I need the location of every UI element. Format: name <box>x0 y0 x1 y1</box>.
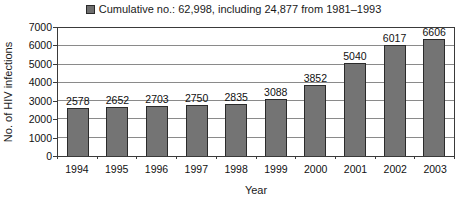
x-tick-label-1996: 1996 <box>137 163 177 175</box>
legend-label: Cumulative no.: 62,998, including 24,877… <box>99 3 382 16</box>
x-tick-mark <box>376 156 416 159</box>
x-tick-mark <box>98 156 138 159</box>
bar-2001 <box>344 63 366 156</box>
y-tick-label-1000: 1000 <box>12 133 52 144</box>
y-tick-label-4000: 4000 <box>12 77 52 88</box>
x-tick-label-2002: 2002 <box>375 163 415 175</box>
bar-2003 <box>423 39 445 156</box>
y-tick-mark-0 <box>53 156 57 157</box>
y-tick-mark-5000 <box>53 64 57 65</box>
y-tick-label-5000: 5000 <box>12 59 52 70</box>
x-tick-mark <box>217 156 257 159</box>
x-tick-label-1999: 1999 <box>256 163 296 175</box>
y-tick-label-7000: 7000 <box>12 22 52 33</box>
bar-slot-1997: 2750 <box>177 27 217 156</box>
y-axis-title-text: No. of HIV infections <box>2 42 14 142</box>
hiv-infections-bar-chart: Cumulative no.: 62,998, including 24,877… <box>0 0 467 207</box>
x-tick-mark <box>296 156 336 159</box>
bar-slot-2001: 5040 <box>335 27 375 156</box>
x-axis-tick-marks <box>57 156 455 159</box>
bar-slot-1999: 3088 <box>256 27 296 156</box>
chart-legend: Cumulative no.: 62,998, including 24,877… <box>0 3 467 16</box>
x-tick-mark <box>336 156 376 159</box>
bar-value-label-2002: 6017 <box>383 33 406 44</box>
y-tick-mark-7000 <box>53 27 57 28</box>
bar-slot-2002: 6017 <box>375 27 415 156</box>
bar-1998 <box>225 104 247 156</box>
bar-slot-1996: 2703 <box>137 27 177 156</box>
x-tick-label-2001: 2001 <box>336 163 376 175</box>
x-tick-label-2003: 2003 <box>415 163 455 175</box>
plot-area: 2578265227032750283530883852504060176606 <box>57 27 455 157</box>
bar-1999 <box>265 99 287 156</box>
bar-1995 <box>106 107 128 156</box>
y-tick-label-3000: 3000 <box>12 96 52 107</box>
bar-value-label-1997: 2750 <box>185 93 208 104</box>
bar-value-label-1994: 2578 <box>66 96 89 107</box>
bar-value-label-2001: 5040 <box>343 51 366 62</box>
y-tick-label-6000: 6000 <box>12 40 52 51</box>
bar-value-label-2003: 6606 <box>422 27 445 38</box>
x-tick-mark <box>415 156 455 159</box>
bar-slot-2003: 6606 <box>414 27 454 156</box>
x-tick-label-1997: 1997 <box>176 163 216 175</box>
y-tick-mark-1000 <box>53 138 57 139</box>
y-tick-mark-2000 <box>53 119 57 120</box>
bar-value-label-2000: 3852 <box>304 73 327 84</box>
bar-1994 <box>67 108 89 156</box>
bar-2000 <box>304 85 326 156</box>
x-tick-mark <box>257 156 297 159</box>
bar-value-label-1998: 2835 <box>224 92 247 103</box>
x-tick-label-2000: 2000 <box>296 163 336 175</box>
bar-value-label-1999: 3088 <box>264 87 287 98</box>
x-tick-label-1994: 1994 <box>57 163 97 175</box>
legend-marker-icon <box>86 5 95 14</box>
bar-slot-1998: 2835 <box>216 27 256 156</box>
bar-1996 <box>146 106 168 156</box>
bars-container: 2578265227032750283530883852504060176606 <box>58 27 454 156</box>
x-tick-label-1998: 1998 <box>216 163 256 175</box>
y-tick-label-0: 0 <box>12 151 52 162</box>
bar-slot-1995: 2652 <box>98 27 138 156</box>
x-axis-tick-labels: 1994199519961997199819992000200120022003 <box>57 163 455 175</box>
x-tick-label-1995: 1995 <box>97 163 137 175</box>
bar-slot-2000: 3852 <box>296 27 336 156</box>
x-tick-mark <box>177 156 217 159</box>
y-tick-mark-6000 <box>53 45 57 46</box>
bar-slot-1994: 2578 <box>58 27 98 156</box>
y-tick-label-2000: 2000 <box>12 114 52 125</box>
bar-2002 <box>384 45 406 156</box>
x-axis-title: Year <box>57 184 455 196</box>
x-tick-mark <box>137 156 177 159</box>
bar-value-label-1996: 2703 <box>145 94 168 105</box>
y-tick-mark-4000 <box>53 82 57 83</box>
bar-1997 <box>186 105 208 156</box>
x-tick-mark <box>57 156 98 159</box>
bar-value-label-1995: 2652 <box>106 95 129 106</box>
y-tick-mark-3000 <box>53 101 57 102</box>
